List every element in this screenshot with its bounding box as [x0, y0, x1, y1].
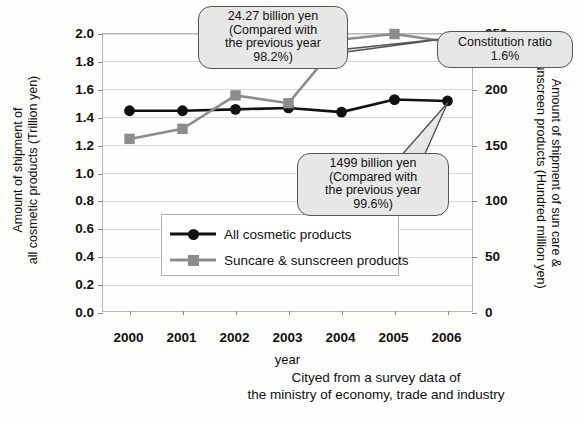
callout-ratio-line1: Constitution ratio 1.6%: [444, 36, 566, 63]
callout-suncare-2006: 24.27 billion yen (Compared with the pre…: [198, 6, 348, 69]
callout-cosmetics-line2: (Compared with: [304, 171, 442, 185]
callout-cosmetics-line3: the previous year 99.6%): [304, 184, 442, 211]
callout-cosmetics-line1: 1499 billion yen: [304, 157, 442, 171]
callout-constitution-ratio: Constitution ratio 1.6%: [437, 31, 573, 68]
callout-suncare-line3: the previous year 98.2%): [205, 37, 341, 64]
callout-suncare-line1: 24.27 billion yen: [205, 10, 341, 24]
callout-cosmetics-2006: 1499 billion yen (Compared with the prev…: [297, 153, 449, 216]
chart-figure: Amount of shipment of all cosmetic produ…: [0, 0, 582, 421]
callout-suncare-line2: (Compared with: [205, 24, 341, 38]
